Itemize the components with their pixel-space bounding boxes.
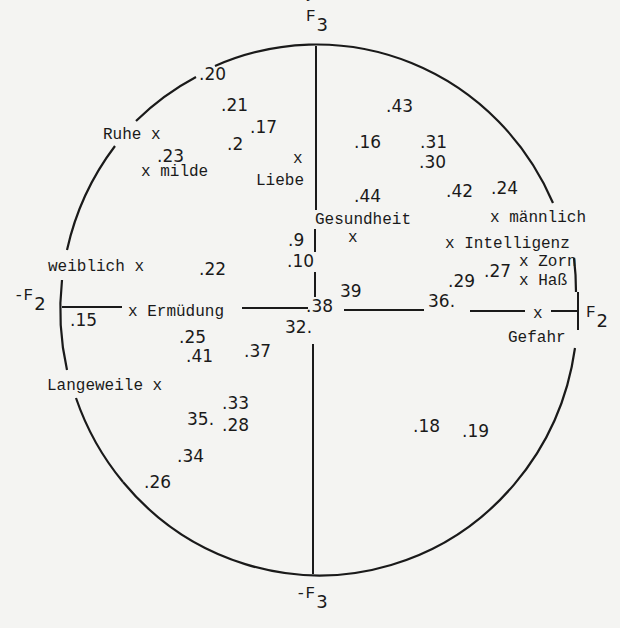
diagram-canvas: ... 3 ... Systems: <box>0 0 620 628</box>
concept-label: Langeweile x <box>47 377 162 395</box>
data-point-label: 32. <box>285 317 312 337</box>
header-text: ... 3 ... Systems: <box>200 0 373 3</box>
axis-label-right: F <box>586 304 596 322</box>
data-point-label: .38 <box>306 296 333 316</box>
concept-label: x Intelligenz <box>445 235 570 253</box>
data-point-label: .25 <box>179 327 206 347</box>
data-point-label: .20 <box>199 64 226 84</box>
data-point-label: .22 <box>199 259 226 279</box>
axis-label-left: -F <box>14 287 33 305</box>
data-point-label: .31 <box>420 132 447 152</box>
concept-label: x <box>293 150 303 168</box>
concept-label: x Haß <box>519 272 567 290</box>
data-point-label: .29 <box>448 271 475 291</box>
data-point-label: 39 <box>340 281 362 301</box>
data-point-label: .24 <box>491 178 518 198</box>
data-point-label: .43 <box>386 96 413 116</box>
axis-subscript-left: 2 <box>34 293 45 314</box>
concept-label: Ruhe x <box>103 126 161 144</box>
concept-label: x Zorn <box>519 253 577 271</box>
axis-label-bottom: -F <box>296 585 315 603</box>
data-point-label: .2 <box>227 134 243 154</box>
axis-subscript-right: 2 <box>597 310 608 331</box>
circle-arc-upper-left <box>136 77 196 121</box>
concept-label: weiblich x <box>48 258 144 276</box>
data-point-label: .23 <box>157 146 184 166</box>
data-point-label: .16 <box>354 132 381 152</box>
data-point-label: 36. <box>428 291 455 311</box>
data-point-label: .33 <box>222 393 249 413</box>
axis-subscript-top: 3 <box>317 14 328 35</box>
data-point-label: .17 <box>250 117 277 137</box>
data-point-label: .41 <box>186 346 213 366</box>
concept-label: x männlich <box>490 209 586 227</box>
circle-arc-left <box>60 280 67 370</box>
data-point-label: .34 <box>177 446 204 466</box>
axis-label-top: F <box>306 8 316 26</box>
data-point-label: 35. <box>187 409 214 429</box>
axis-subscript-bottom: 3 <box>316 591 327 612</box>
data-point-label: .9 <box>288 230 304 250</box>
data-point-label: .18 <box>413 416 440 436</box>
data-point-label: .30 <box>419 152 446 172</box>
data-point-label: .42 <box>446 181 473 201</box>
data-point-label: .37 <box>244 341 271 361</box>
data-point-label: .28 <box>222 415 249 435</box>
concept-label: x <box>348 229 358 247</box>
data-point-label: .27 <box>484 261 511 281</box>
concept-label: Liebe <box>256 172 304 190</box>
circle-arc-left-upper <box>67 146 115 250</box>
data-point-label: .10 <box>287 251 314 271</box>
semantic-space-diagram: ... 3 ... Systems: <box>0 0 620 628</box>
circle-arc-lower-left <box>76 398 123 482</box>
concept-label: x <box>533 305 543 323</box>
data-point-label: .44 <box>354 186 381 206</box>
data-point-label: .19 <box>462 421 489 441</box>
data-point-label: .15 <box>70 310 97 330</box>
concept-label: x Ermüdung <box>128 303 224 321</box>
data-point-label: .26 <box>144 472 171 492</box>
concept-label: Gefahr <box>508 329 566 347</box>
concept-label: Gesundheit <box>315 211 411 229</box>
data-point-label: .21 <box>221 95 248 115</box>
